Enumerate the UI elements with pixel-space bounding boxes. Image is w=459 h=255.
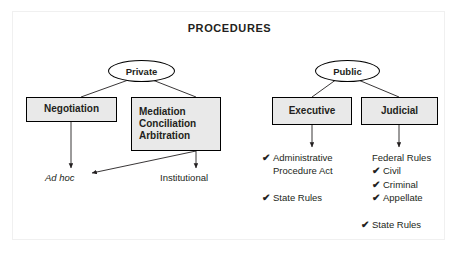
node-mediation-group[interactable]: Mediation Conciliation Arbitration [131, 97, 221, 151]
list-item-label: State Rules [372, 218, 421, 231]
check-icon: ✔ [372, 191, 383, 204]
page-title: PROCEDURES [0, 22, 459, 34]
leaf-ad-hoc: Ad hoc [45, 172, 75, 183]
node-negotiation-label: Negotiation [44, 103, 99, 115]
node-public-label: Public [333, 66, 362, 77]
node-executive-label: Executive [289, 105, 336, 117]
node-mediation-label: Mediation [139, 106, 186, 118]
node-arbitration-label: Arbitration [139, 130, 190, 142]
node-conciliation-label: Conciliation [139, 118, 196, 130]
node-judicial-label: Judicial [381, 105, 418, 117]
list-item-label: Civil [383, 164, 401, 177]
check-icon: ✔ [372, 164, 383, 177]
list-item-label: Administrative [273, 151, 333, 164]
line-private-negotiation [81, 79, 131, 97]
list-item: ✔ Civil [361, 164, 431, 177]
list-item-label: Procedure Act [273, 164, 333, 177]
list-item: ✔ State Rules [262, 191, 333, 204]
diagram-canvas: PROCEDURES Private Negotiation Mediation… [0, 0, 459, 255]
list-item: ✔ Administrative [262, 151, 333, 164]
list-gap [361, 205, 431, 218]
check-icon: ✔ [361, 218, 372, 231]
node-negotiation[interactable]: Negotiation [26, 97, 117, 122]
list-item: ✔ Procedure Act [262, 164, 333, 177]
list-item-label: State Rules [273, 191, 322, 204]
line-private-mediation [150, 79, 196, 97]
list-item: ✔ State Rules [361, 218, 431, 231]
executive-rule-list: ✔ Administrative ✔ Procedure Act ✔ State… [262, 151, 333, 204]
list-item-label: Federal Rules [372, 151, 431, 164]
arrow-mediation-adhoc [92, 151, 196, 173]
leaf-institutional: Institutional [160, 172, 208, 183]
node-private-label: Private [126, 66, 158, 77]
list-item: ✔ Appellate [361, 191, 431, 204]
line-public-judicial [356, 79, 399, 97]
list-item-label: Appellate [383, 191, 423, 204]
node-executive[interactable]: Executive [272, 97, 352, 125]
node-private[interactable]: Private [108, 60, 175, 82]
check-icon: ✔ [372, 178, 383, 191]
check-icon: ✔ [262, 151, 273, 164]
list-item: ✔ Criminal [361, 178, 431, 191]
node-judicial[interactable]: Judicial [361, 97, 438, 125]
line-public-executive [312, 79, 337, 97]
list-item: ✔ Federal Rules [361, 151, 431, 164]
check-icon: ✔ [262, 191, 273, 204]
list-gap [262, 178, 333, 191]
judicial-rule-list: ✔ Federal Rules ✔ Civil ✔ Criminal ✔ App… [361, 151, 431, 231]
list-item-label: Criminal [383, 178, 418, 191]
node-public[interactable]: Public [315, 60, 380, 82]
